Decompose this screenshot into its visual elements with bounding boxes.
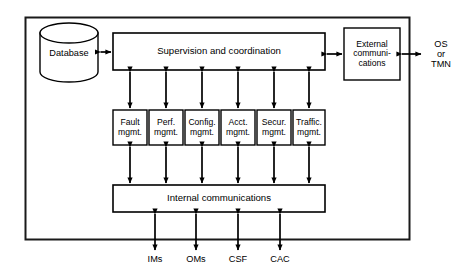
- mgmt-block-fault-line2: mgmt.: [118, 128, 142, 138]
- mgmt-block-acct-line2: mgmt.: [226, 128, 250, 138]
- internal-comms-box-label: Internal communications: [113, 185, 325, 212]
- mgmt-block-perf-line2: mgmt.: [154, 128, 178, 138]
- mgmt-block-secur: Secur. mgmt.: [257, 110, 291, 145]
- external-comms-box-label: External communi- cations: [344, 28, 400, 80]
- mgmt-block-perf: Perf. mgmt.: [149, 110, 183, 145]
- interface-label-cac: CAC: [260, 252, 300, 266]
- mgmt-block-fault: Fault mgmt.: [113, 110, 147, 145]
- os-tmn-label: OS or TMN: [422, 28, 460, 80]
- mgmt-block-traffic: Traffic. mgmt.: [293, 110, 325, 145]
- interface-label-ims: IMs: [135, 252, 175, 266]
- diagram-canvas: Database Supervision and coordination Ex…: [0, 0, 462, 279]
- mgmt-block-secur-line2: mgmt.: [262, 128, 286, 138]
- interface-label-csf: CSF: [218, 252, 258, 266]
- mgmt-block-config: Config. mgmt.: [185, 110, 219, 145]
- supervision-box-label: Supervision and coordination: [113, 33, 325, 70]
- mgmt-block-config-line2: mgmt.: [190, 128, 214, 138]
- database-label: Database: [40, 42, 98, 64]
- mgmt-block-acct: Acct. mgmt.: [221, 110, 255, 145]
- interface-label-oms: OMs: [176, 252, 216, 266]
- mgmt-block-traffic-line2: mgmt.: [297, 128, 321, 138]
